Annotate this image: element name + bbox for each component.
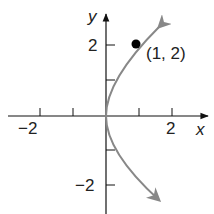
chart: y x −2 2 2 −2 (1, 2) xyxy=(0,0,214,214)
point-label: (1, 2) xyxy=(146,45,186,62)
y-tick-label-neg2: −2 xyxy=(75,177,94,194)
y-axis xyxy=(106,14,115,214)
x-axis xyxy=(8,108,208,116)
point-marker xyxy=(132,40,141,49)
y-tick-label-2: 2 xyxy=(88,37,97,54)
y-axis-label: y xyxy=(88,8,97,25)
x-tick-label-neg2: −2 xyxy=(18,120,37,137)
x-tick-label-2: 2 xyxy=(166,120,175,137)
parabola-curve xyxy=(106,27,159,116)
x-axis-label: x xyxy=(196,121,205,138)
parabola-curve-lower xyxy=(106,116,159,200)
plot-area xyxy=(0,0,214,214)
